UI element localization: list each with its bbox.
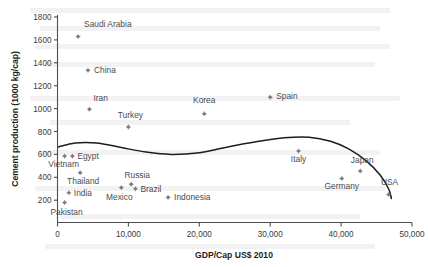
y-tick-label: 1800 (33, 13, 52, 22)
data-point (119, 185, 124, 190)
data-point-label: Mexico (106, 192, 133, 202)
y-tick-label: 400 (38, 173, 52, 182)
data-point-label: Vietnam (48, 159, 79, 169)
data-point-label: Italy (291, 154, 307, 164)
data-point-label: Pakistan (51, 207, 83, 217)
y-tick-label: 600 (38, 150, 52, 159)
y-axis-ticks: 20040060080010001200140016001800 (33, 13, 57, 205)
x-tick-label: 20,000 (187, 230, 212, 239)
data-point (62, 200, 67, 205)
y-axis-title: Cement production (1000 kg/cap) (10, 51, 20, 187)
data-point (126, 125, 131, 130)
data-point-label: USA (381, 177, 399, 187)
x-tick-label: 50,000 (399, 230, 424, 239)
x-tick-label: 40,000 (329, 230, 354, 239)
data-point (296, 149, 301, 154)
data-point-label: Brazil (140, 184, 161, 194)
data-point-label: Saudi Arabia (84, 19, 132, 29)
data-point-label: Japan (351, 155, 374, 165)
y-tick-label: 1400 (33, 59, 52, 68)
data-point (133, 186, 138, 191)
data-point-label: China (94, 65, 116, 75)
data-point (202, 111, 207, 116)
data-point-labels: Saudi ArabiaChinaIranTurkeyKoreaSpainIta… (48, 19, 398, 217)
cement-production-scatter-chart: 20040060080010001200140016001800 010,000… (0, 0, 428, 267)
data-point-label: Russia (124, 170, 150, 180)
y-tick-label: 800 (38, 128, 52, 137)
x-tick-label: 30,000 (258, 230, 283, 239)
data-point (70, 154, 75, 159)
data-point (166, 195, 171, 200)
x-tick-label: 10,000 (116, 230, 141, 239)
data-point (87, 107, 92, 112)
data-point-label: Turkey (118, 110, 144, 120)
data-point-label: Thailand (67, 176, 99, 186)
data-point (62, 154, 67, 159)
data-point (129, 182, 134, 187)
data-point-label: Iran (93, 93, 108, 103)
data-point (66, 190, 71, 195)
data-point (268, 95, 273, 100)
data-markers (62, 34, 391, 205)
y-tick-label: 200 (38, 196, 52, 205)
x-axis-title: GDP/Cap US$ 2010 (195, 250, 273, 260)
data-point-label: Spain (276, 91, 298, 101)
data-point (76, 34, 81, 39)
data-point-label: India (74, 188, 93, 198)
data-point (358, 169, 363, 174)
data-point-label: Indonesia (174, 192, 211, 202)
data-point (86, 68, 91, 73)
y-tick-label: 1200 (33, 82, 52, 91)
data-point-label: Germany (325, 181, 360, 191)
data-point-label: Egypt (77, 151, 99, 161)
data-point (78, 170, 83, 175)
data-point (339, 176, 344, 181)
y-tick-label: 1600 (33, 36, 52, 45)
plot-area: 20040060080010001200140016001800 010,000… (0, 0, 428, 267)
x-axis-ticks: 010,00020,00030,00040,00050,000 (55, 223, 425, 239)
y-tick-label: 1000 (33, 105, 52, 114)
x-tick-label: 0 (55, 230, 60, 239)
data-point-label: Korea (193, 95, 216, 105)
